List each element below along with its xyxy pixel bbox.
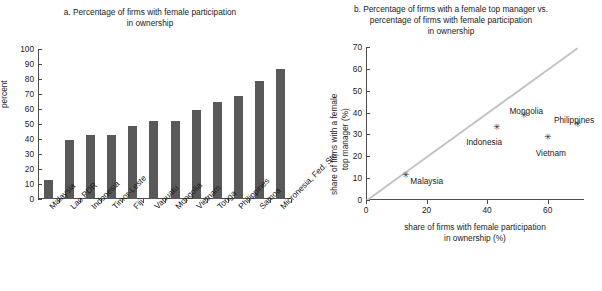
chart-a-title: a. Percentage of firms with female parti…	[0, 7, 300, 29]
chart-a-ytick-label: 50	[8, 119, 34, 129]
chart-b-xtick	[487, 200, 488, 204]
figure-root: a. Percentage of firms with female parti…	[0, 0, 602, 291]
chart-a-ytick	[38, 49, 42, 50]
chart-b-xtick	[366, 200, 367, 204]
chart-a-ytick-label: 10	[8, 179, 34, 189]
chart-b-ytick	[366, 113, 370, 114]
chart-b-ytick-label: 60	[338, 64, 362, 74]
chart-b-xlabel-line2: in ownership (%)	[366, 233, 584, 243]
bar	[234, 96, 243, 200]
chart-a-ytick	[38, 154, 42, 155]
chart-b-ytick-label: 70	[338, 42, 362, 52]
chart-b-xtick-label: 0	[354, 205, 378, 215]
chart-a-ytick-label: 100	[8, 44, 34, 54]
chart-b-title: b. Percentage of firms with a female top…	[300, 4, 602, 37]
chart-b-xaxis	[366, 199, 584, 200]
chart-a-ytick-label: 30	[8, 149, 34, 159]
chart-b-title-line3: in ownership	[300, 26, 602, 37]
chart-a-ytick-label: 70	[8, 89, 34, 99]
chart-a-ytick	[38, 169, 42, 170]
chart-a-ytick-label: 60	[8, 104, 34, 114]
chart-b-ytick	[366, 178, 370, 179]
chart-a-ytick	[38, 109, 42, 110]
chart-b-yaxis	[366, 47, 367, 200]
bar	[44, 180, 53, 199]
scatter-point-label: Indonesia	[466, 137, 502, 147]
chart-a-ytick-label: 80	[8, 74, 34, 84]
chart-b-xlabel-line1: share of firms with female participation	[366, 222, 584, 232]
chart-b-ytick	[366, 69, 370, 70]
chart-a-ytick	[38, 199, 42, 200]
chart-b-xtick-label: 40	[475, 205, 499, 215]
chart-b-ytick-label: 20	[338, 151, 362, 161]
chart-b-xtick-label: 20	[415, 205, 439, 215]
chart-b-xtick	[548, 200, 549, 204]
chart-b-plot-area: 010203040506070 0204060 ✳Malaysia✳Indone…	[366, 47, 584, 200]
chart-b-ytick-label: 10	[338, 173, 362, 183]
chart-b-ytick-label: 40	[338, 108, 362, 118]
scatter-point-label: Vietnam	[536, 148, 566, 158]
scatter-point-label: Philippines	[554, 115, 594, 125]
chart-b-ytick-label: 0	[338, 195, 362, 205]
bar	[276, 69, 285, 200]
chart-b-ytick	[366, 47, 370, 48]
chart-b-title-line2: percentage of firms with female particip…	[300, 15, 602, 26]
chart-b-xtick-label: 60	[536, 205, 560, 215]
chart-a-title-line2: in ownership	[0, 18, 300, 29]
chart-b-title-line1: b. Percentage of firms with a female top…	[300, 4, 602, 15]
chart-a-plot-area: 0102030405060708090100 MalaysiaLao PDRIn…	[38, 49, 291, 199]
chart-panel-a: a. Percentage of firms with female parti…	[0, 0, 300, 291]
chart-b-ytick	[366, 91, 370, 92]
chart-a-ytick	[38, 139, 42, 140]
scatter-point-label: Malaysia	[410, 176, 443, 186]
chart-a-ytick-label: 40	[8, 134, 34, 144]
chart-b-ytick	[366, 156, 370, 157]
bar	[149, 121, 158, 199]
chart-a-ytick-label: 0	[8, 194, 34, 204]
chart-a-title-line1: a. Percentage of firms with female parti…	[0, 7, 300, 18]
chart-b-ytick-label: 50	[338, 86, 362, 96]
scatter-point-label: Mongolia	[509, 106, 543, 116]
chart-b-xtick	[427, 200, 428, 204]
chart-a-ytick	[38, 124, 42, 125]
chart-b-ytick-label: 30	[338, 129, 362, 139]
chart-a-ytick-label: 90	[8, 59, 34, 69]
chart-b-ytick	[366, 134, 370, 135]
chart-a-ytick	[38, 64, 42, 65]
chart-a-ytick	[38, 79, 42, 80]
chart-a-ytick	[38, 184, 42, 185]
chart-b-reference-line	[365, 47, 578, 202]
chart-a-ytick-label: 20	[8, 164, 34, 174]
chart-a-ytick	[38, 94, 42, 95]
